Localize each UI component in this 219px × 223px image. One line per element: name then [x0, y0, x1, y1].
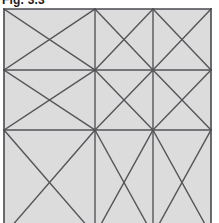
- node-c1-r1: [94, 69, 97, 72]
- figure-caption-clip: Fig. 3.3: [0, 0, 219, 7]
- node-c2-r2: [152, 129, 155, 132]
- node-c1-r2: [94, 129, 97, 132]
- figure-container: Fig. 3.3: [0, 0, 219, 223]
- grid-diagram: [0, 0, 219, 223]
- figure-caption: Fig. 3.3: [2, 0, 45, 7]
- node-c2-r1: [152, 69, 155, 72]
